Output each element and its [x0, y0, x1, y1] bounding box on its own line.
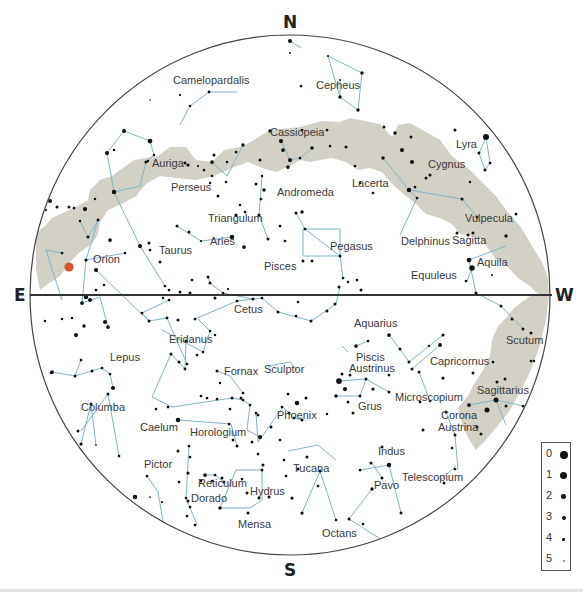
constellation-label: Aquarius	[354, 317, 398, 329]
constellation-label: Cygnus	[428, 158, 466, 170]
constellation-label: Octans	[322, 527, 357, 539]
constellation-label: Orion	[93, 253, 120, 265]
south-label: S	[284, 560, 296, 580]
constellation-label: Austrina	[438, 421, 479, 433]
constellation-label: Vulpecula	[465, 212, 514, 224]
constellation-label: Equuleus	[411, 269, 457, 281]
magnitude-dot-3	[562, 516, 566, 520]
constellation-label: Lepus	[110, 351, 140, 363]
constellation-label: Eridanus	[169, 333, 213, 345]
constellation-label: Cetus	[234, 303, 263, 315]
legend-row-0: 0	[542, 445, 572, 465]
constellation-label: Mensa	[238, 518, 272, 530]
constellation-label: Cepheus	[316, 79, 361, 91]
constellation-label: Reticulum	[198, 477, 247, 489]
constellation-label: Perseus	[171, 181, 212, 193]
magnitude-dot-4	[562, 538, 565, 541]
constellation-label: Lacerta	[352, 177, 390, 189]
magnitude-dot-0	[560, 451, 568, 459]
constellation-label: Triangulum	[208, 212, 263, 224]
legend-row-2: 2	[542, 487, 572, 507]
constellation-label: Aquila	[477, 256, 508, 268]
star-chart: CamelopardalisCepheusCassiopeiaLyraAurig…	[0, 0, 583, 592]
constellation-label: Tucana	[293, 462, 330, 474]
constellation-label: Andromeda	[277, 186, 335, 198]
constellation-label: Pegasus	[330, 240, 373, 252]
constellation-label: Pictor	[144, 458, 172, 470]
magnitude-legend: 0 1 2 3 4 5	[541, 442, 571, 571]
constellation-label: Scutum	[506, 334, 543, 346]
constellation-label: Sagittarius	[477, 384, 529, 396]
constellation-label: Hydrus	[250, 485, 285, 497]
constellation-label: Cassiopeia	[270, 126, 325, 138]
constellation-label: Caelum	[140, 421, 178, 433]
east-label: E	[14, 285, 26, 305]
constellation-label: Indus	[378, 445, 405, 457]
constellation-label: Pavo	[374, 479, 399, 491]
constellation-label: Dorado	[191, 492, 227, 504]
constellation-label: Lyra	[456, 138, 478, 150]
magnitude-dot-1	[560, 472, 567, 479]
north-label: N	[283, 12, 297, 32]
constellation-label: Phoenix	[277, 409, 317, 421]
constellation-label: Sagitta	[452, 234, 487, 246]
constellation-lines	[46, 41, 523, 540]
constellation-label: Microscopium	[395, 391, 463, 403]
magnitude-dot-2	[561, 494, 566, 499]
constellation-label: Camelopardalis	[173, 74, 250, 86]
constellation-label: Capricornus	[430, 355, 490, 367]
constellation-label: Auriga	[152, 157, 185, 169]
constellation-label: Pisces	[264, 260, 297, 272]
constellation-label: Telescopium	[402, 471, 463, 483]
legend-row-5: 5	[542, 550, 572, 570]
west-label: W	[555, 285, 574, 305]
constellation-label: Grus	[358, 400, 382, 412]
constellation-label: Corona	[441, 409, 478, 421]
constellation-label: Sculptor	[264, 363, 305, 375]
legend-row-4: 4	[542, 529, 572, 549]
constellation-label: Aries	[210, 235, 236, 247]
constellation-label: Fornax	[224, 365, 259, 377]
constellation-label: Columba	[81, 401, 126, 413]
highlight-star-betelgeuse	[64, 262, 73, 271]
constellation-label: Austrinus	[349, 362, 395, 374]
legend-row-3: 3	[542, 508, 572, 528]
constellation-label: Delphinus	[401, 235, 450, 247]
legend-row-1: 1	[542, 466, 572, 486]
constellation-label: Horologium	[190, 426, 246, 438]
magnitude-dot-5	[563, 560, 565, 562]
constellation-label: Taurus	[159, 244, 193, 256]
